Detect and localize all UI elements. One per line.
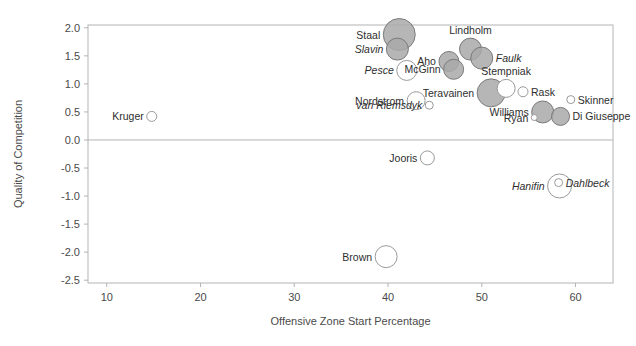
data-point-label: Stempniak xyxy=(481,65,531,77)
data-point-bubble[interactable] xyxy=(420,151,434,165)
x-axis-tick-label: 60 xyxy=(569,291,581,303)
data-point-bubble[interactable] xyxy=(555,179,563,187)
data-point-label: McGinn xyxy=(404,63,440,75)
x-axis-title: Offensive Zone Start Percentage xyxy=(271,315,431,327)
data-point-bubble[interactable] xyxy=(567,96,575,104)
y-axis-tick-label: -1.5 xyxy=(61,218,80,230)
data-point-label: Hanifin xyxy=(512,180,545,192)
chart-container: 2.01.51.00.50.0-0.5-1.0-1.5-2.0-2.510203… xyxy=(0,0,636,346)
y-axis-tick-label: 0.0 xyxy=(65,134,80,146)
scatter-plot: 2.01.51.00.50.0-0.5-1.0-1.5-2.0-2.510203… xyxy=(0,0,636,346)
data-point-label: Lindholm xyxy=(449,24,492,36)
data-point-label: Slavin xyxy=(355,43,384,55)
y-axis-tick-label: -2.0 xyxy=(61,246,80,258)
y-axis-tick-label: -0.5 xyxy=(61,162,80,174)
y-axis-title: Quality of Competition xyxy=(12,100,24,208)
data-point-label: Staal xyxy=(356,29,380,41)
data-point-bubble[interactable] xyxy=(147,111,157,121)
x-axis-tick-label: 10 xyxy=(101,291,113,303)
y-axis-tick-label: -1.0 xyxy=(61,190,80,202)
data-point-bubble[interactable] xyxy=(386,38,408,60)
y-axis-tick-label: 1.5 xyxy=(65,50,80,62)
data-point-label: Ryan xyxy=(504,112,529,124)
plot-area-frame xyxy=(88,25,613,283)
y-axis-tick-label: 1.0 xyxy=(65,78,80,90)
data-point-label: Rask xyxy=(531,86,556,98)
data-point-bubble[interactable] xyxy=(497,79,515,97)
data-point-bubble[interactable] xyxy=(425,101,433,109)
data-point-label: Kruger xyxy=(112,110,144,122)
data-point-bubble[interactable] xyxy=(375,246,397,268)
y-axis-tick-label: -2.5 xyxy=(61,274,80,286)
y-axis-tick-label: 2.0 xyxy=(65,22,80,34)
data-point-bubble[interactable] xyxy=(518,87,528,97)
x-axis-tick-label: 20 xyxy=(194,291,206,303)
x-axis-tick-label: 40 xyxy=(382,291,394,303)
data-point-label: Teravainen xyxy=(423,87,475,99)
data-point-label: van Riemsdyk xyxy=(356,99,423,111)
data-point-bubble[interactable] xyxy=(552,107,570,125)
x-axis-tick-label: 30 xyxy=(288,291,300,303)
data-point-label: Di Giuseppe xyxy=(573,110,631,122)
data-point-bubble[interactable] xyxy=(444,59,464,79)
data-point-label: Skinner xyxy=(578,94,614,106)
data-point-bubble[interactable] xyxy=(531,115,537,121)
data-point-label: Jooris xyxy=(389,152,417,164)
data-point-label: Faulk xyxy=(496,52,522,64)
data-point-label: Pesce xyxy=(365,64,394,76)
x-axis-tick-label: 50 xyxy=(476,291,488,303)
data-point-label: Dahlbeck xyxy=(566,177,611,189)
y-axis-tick-label: 0.5 xyxy=(65,106,80,118)
data-point-label: Brown xyxy=(342,251,372,263)
